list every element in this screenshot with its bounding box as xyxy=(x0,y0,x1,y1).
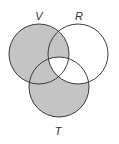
label-r: R xyxy=(75,10,83,22)
label-v: V xyxy=(35,10,44,22)
label-t: T xyxy=(55,125,63,137)
venn-diagram: V R T xyxy=(0,0,119,144)
